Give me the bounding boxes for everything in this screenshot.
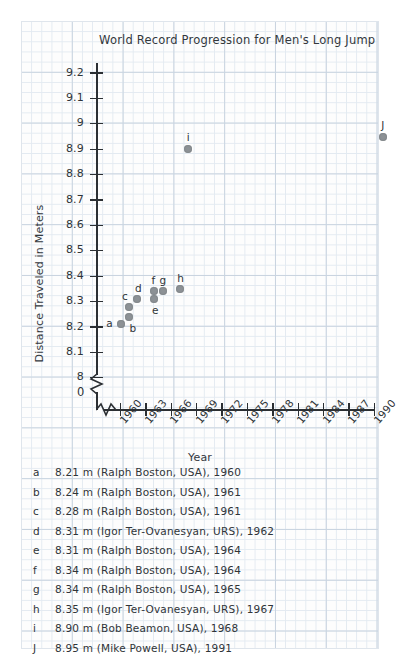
legend-key: b — [33, 486, 47, 498]
data-point-label-a: a — [106, 317, 113, 329]
legend-text: 8.95 m (Mike Powell, USA), 1991 — [55, 642, 232, 654]
data-point-label-J: J — [381, 119, 384, 131]
data-point-J — [379, 133, 387, 141]
legend-key: g — [33, 583, 47, 595]
data-point-f — [150, 287, 158, 295]
legend-row: a8.21 m (Ralph Boston, USA), 1960 — [33, 466, 363, 486]
x-axis-break-icon — [96, 401, 116, 419]
y-tick-mark — [90, 123, 103, 124]
legend-key: f — [33, 564, 47, 576]
legend-row: h8.35 m (Igor Ter-Ovanesyan, URS), 1967 — [33, 603, 363, 623]
chart-legend: a8.21 m (Ralph Boston, USA), 1960b8.24 m… — [33, 466, 363, 661]
data-point-label-i: i — [187, 131, 190, 143]
data-point-i — [184, 145, 192, 153]
legend-text: 8.31 m (Ralph Boston, USA), 1964 — [55, 544, 241, 556]
x-tick-label: 1963 — [142, 397, 169, 426]
data-point-label-b: b — [130, 322, 137, 334]
data-point-label-e: e — [152, 304, 159, 316]
y-tick-label: 8.5 — [44, 243, 84, 256]
y-tick-label: 9.1 — [44, 91, 84, 104]
legend-key: c — [33, 505, 47, 517]
x-tick-label: 1972 — [218, 397, 245, 426]
legend-row: i8.90 m (Bob Beamon, USA), 1968 — [33, 622, 363, 642]
y-tick-label: 8 — [44, 370, 84, 383]
data-point-d — [133, 295, 141, 303]
y-tick-mark — [90, 301, 103, 302]
legend-row: J8.95 m (Mike Powell, USA), 1991 — [33, 642, 363, 662]
y-tick-mark — [90, 174, 103, 175]
y-tick-label: 8.7 — [44, 193, 84, 206]
y-tick-mark — [90, 352, 103, 353]
legend-key: a — [33, 466, 47, 478]
legend-text: 8.34 m (Ralph Boston, USA), 1965 — [55, 583, 241, 595]
y-tick-label: 8.3 — [44, 294, 84, 307]
legend-key: e — [33, 544, 47, 556]
y-tick-mark — [90, 377, 103, 378]
legend-key: J — [33, 642, 47, 654]
origin-zero-label: 0 — [77, 385, 85, 399]
data-point-label-f: f — [151, 274, 155, 286]
legend-row: f8.34 m (Ralph Boston, USA), 1964 — [33, 564, 363, 584]
y-tick-mark — [90, 326, 103, 327]
y-tick-mark — [90, 199, 103, 200]
legend-row: g8.34 m (Ralph Boston, USA), 1965 — [33, 583, 363, 603]
legend-row: b8.24 m (Ralph Boston, USA), 1961 — [33, 486, 363, 506]
legend-text: 8.21 m (Ralph Boston, USA), 1960 — [55, 466, 241, 478]
legend-text: 8.31 m (Igor Ter-Ovanesyan, URS), 1962 — [55, 525, 274, 537]
legend-row: d8.31 m (Igor Ter-Ovanesyan, URS), 1962 — [33, 525, 363, 545]
scatter-chart: World Record Progression for Men's Long … — [0, 0, 399, 670]
y-tick-mark — [90, 149, 103, 150]
legend-row: c8.28 m (Ralph Boston, USA), 1961 — [33, 505, 363, 525]
y-tick-label: 9 — [44, 116, 84, 129]
y-tick-mark — [90, 98, 103, 99]
legend-text: 8.24 m (Ralph Boston, USA), 1961 — [55, 486, 241, 498]
x-tick-label: 1978 — [269, 397, 296, 426]
y-tick-label: 9.2 — [44, 66, 84, 79]
legend-row: e8.31 m (Ralph Boston, USA), 1964 — [33, 544, 363, 564]
y-tick-label: 8.2 — [44, 320, 84, 333]
y-tick-mark — [90, 225, 103, 226]
data-point-label-h: h — [177, 272, 184, 284]
legend-key: i — [33, 622, 47, 634]
y-tick-label: 8.4 — [44, 269, 84, 282]
x-tick-label: 1981 — [294, 397, 321, 426]
x-tick-label: 1987 — [345, 397, 372, 426]
data-point-a — [117, 320, 125, 328]
data-point-g — [159, 287, 167, 295]
x-tick-label: 1966 — [167, 397, 194, 426]
y-axis-line — [96, 63, 98, 375]
legend-key: d — [33, 525, 47, 537]
y-tick-label: 8.6 — [44, 218, 84, 231]
chart-title: World Record Progression for Men's Long … — [99, 33, 374, 47]
y-tick-label: 8.9 — [44, 142, 84, 155]
y-tick-label: 8.1 — [44, 345, 84, 358]
y-tick-label: 8.8 — [44, 167, 84, 180]
legend-key: h — [33, 603, 47, 615]
y-tick-mark — [90, 276, 103, 277]
legend-text: 8.28 m (Ralph Boston, USA), 1961 — [55, 505, 241, 517]
y-tick-mark — [90, 250, 103, 251]
data-point-h — [176, 285, 184, 293]
data-point-label-c: c — [122, 290, 128, 302]
x-axis-label: Year — [188, 451, 212, 464]
legend-text: 8.90 m (Bob Beamon, USA), 1968 — [55, 622, 238, 634]
legend-text: 8.35 m (Igor Ter-Ovanesyan, URS), 1967 — [55, 603, 274, 615]
y-tick-mark — [90, 72, 103, 73]
data-point-label-d: d — [135, 282, 142, 294]
data-point-b — [125, 313, 133, 321]
legend-text: 8.34 m (Ralph Boston, USA), 1964 — [55, 564, 241, 576]
data-point-c — [125, 303, 133, 311]
data-point-e — [150, 295, 158, 303]
data-point-label-g: g — [159, 274, 166, 286]
